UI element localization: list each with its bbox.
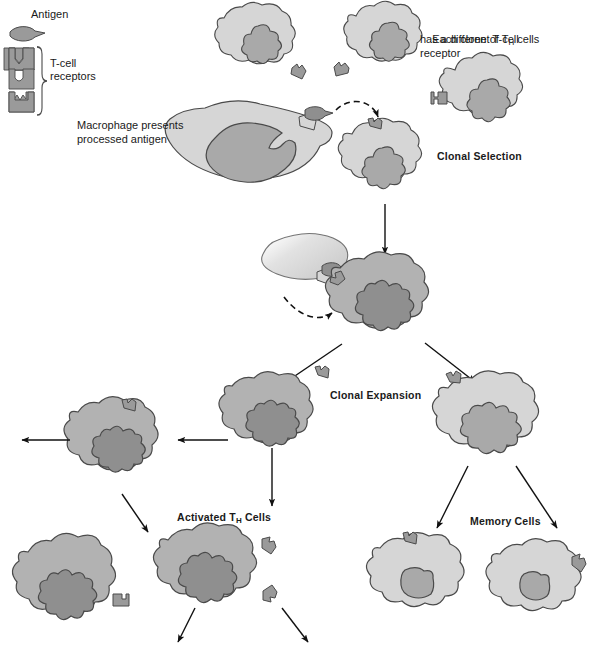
activated-th-cell-3 xyxy=(12,533,129,619)
macrophage xyxy=(165,101,333,182)
activated-th-cells-label: Activated TH Cells xyxy=(165,497,271,539)
clonal-selection-label: Clonal Selection xyxy=(437,150,522,164)
clone-note-line2: has a different T-cell xyxy=(420,33,519,47)
clone-note-line3: receptor xyxy=(420,47,460,61)
activated-label-subscript-h: H xyxy=(236,516,242,525)
t-cell-receptor xyxy=(334,62,349,76)
activated-label-text-a: Activated T xyxy=(177,511,236,523)
memory-parent-cell xyxy=(432,371,538,454)
arrow-bottom-right-out xyxy=(282,608,308,642)
t-cell-receptor xyxy=(431,92,447,104)
naive-t-cell-1 xyxy=(215,2,306,79)
clonal-expansion-label: Clonal Expansion xyxy=(330,389,421,403)
memory-cells-label: Memory Cells xyxy=(470,515,541,529)
t-cell-receptor xyxy=(262,537,276,554)
legend-receptor-icon-2 xyxy=(9,69,34,89)
legend-receptor-icon-1 xyxy=(4,48,34,70)
legend-antigen-label: Antigen xyxy=(31,8,68,22)
figure-canvas: Antigen T-cell receptors Each clone of T… xyxy=(0,0,615,648)
clonal-selection-diagram xyxy=(0,0,615,648)
legend-receptor-label-line1: T-cell xyxy=(50,57,76,71)
t-cell-receptor xyxy=(315,366,329,378)
activated-th-cell-2 xyxy=(64,397,158,472)
t-cell-receptor xyxy=(291,64,306,79)
t-cell-receptor xyxy=(113,594,129,606)
antigen-recognition-arrow-2 xyxy=(284,297,332,318)
naive-t-cell-3 xyxy=(431,52,523,121)
arrow-bottom-left-out xyxy=(178,608,195,642)
memory-cell-2 xyxy=(486,539,586,611)
t-cell-receptor xyxy=(446,371,461,383)
arrow-to-bottom-left-cell xyxy=(122,494,148,532)
macrophage-label-line2: processed antigen xyxy=(77,133,167,147)
t-cell-receptor xyxy=(263,585,277,602)
antigen-icon xyxy=(305,107,333,121)
activated-th-cell-1 xyxy=(219,366,329,446)
selected-t-cell xyxy=(338,118,421,189)
memory-cell-1 xyxy=(366,532,464,607)
legend-antigen-icon xyxy=(10,27,45,41)
naive-t-cell-2 xyxy=(334,1,422,76)
macrophage-label-line1: Macrophage presents xyxy=(77,119,183,133)
activated-label-text-b: Cells xyxy=(242,511,271,523)
legend-brace xyxy=(37,47,47,115)
antigen-recognition-arrow xyxy=(336,102,378,117)
legend-receptor-label-line2: receptors xyxy=(50,70,96,84)
arrow-memory-left xyxy=(437,466,468,528)
legend-receptor-icon-4 xyxy=(9,92,34,112)
